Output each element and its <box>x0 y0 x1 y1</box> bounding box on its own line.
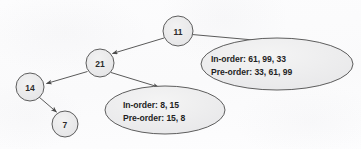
node-label-left-child: 21 <box>95 59 105 68</box>
edge-grandchild-to-leaf <box>39 97 57 112</box>
edge-left-child-to-left-grandchild <box>47 72 88 84</box>
bubble-bottom-in-order-line: In-order: 8, 15 <box>123 99 185 112</box>
tree-diagram-vector-layer <box>0 0 361 149</box>
diagram-canvas: 11 21 14 7 In-order: 61, 99, 33 Pre-orde… <box>0 0 361 149</box>
node-label-left-grandchild: 14 <box>25 83 35 92</box>
edge-left-child-to-bottom-bubble <box>111 73 159 88</box>
node-label-root: 11 <box>173 27 182 36</box>
node-label-leaf: 7 <box>63 120 68 129</box>
bubble-bottom-pre-order-line: Pre-order: 15, 8 <box>123 112 185 125</box>
bubble-right-in-order-line: In-order: 61, 99, 33 <box>211 53 292 66</box>
bubble-right-pre-order-line: Pre-order: 33, 61, 99 <box>211 66 292 79</box>
edge-root-to-left-child <box>113 38 165 54</box>
bubble-right-text: In-order: 61, 99, 33 Pre-order: 33, 61, … <box>211 53 292 78</box>
bubble-bottom-text: In-order: 8, 15 Pre-order: 15, 8 <box>123 99 185 124</box>
